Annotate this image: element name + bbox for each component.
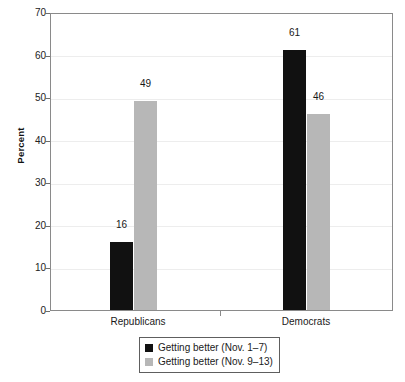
bar-republicans-nov1-7 [110,242,133,310]
x-tick-label-republicans: Republicans [88,316,188,327]
gridline-50 [51,99,392,100]
gridline-40 [51,141,392,142]
legend-item-nov9-13: Getting better (Nov. 9–13) [145,355,273,369]
y-tick-label-70: 70 [6,8,46,18]
y-tick-label-20: 20 [6,221,46,231]
y-tick-label-10: 10 [6,263,46,273]
bar-value-democrats-nov1-7: 61 [279,27,310,38]
chart-legend: Getting better (Nov. 1–7) Getting better… [139,337,280,373]
y-tick-label-30: 30 [6,178,46,188]
legend-item-nov1-7: Getting better (Nov. 1–7) [145,341,273,355]
plot-inner: 16 49 61 46 [51,14,392,310]
legend-swatch-icon-nov9-13 [145,358,153,366]
bar-value-republicans-nov9-13: 49 [130,78,161,89]
plot-area: 16 49 61 46 [50,13,393,311]
bar-value-democrats-nov9-13: 46 [303,91,334,102]
bar-democrats-nov9-13 [307,114,330,310]
y-tick-label-50: 50 [6,93,46,103]
legend-label-nov9-13: Getting better (Nov. 9–13) [158,356,273,368]
bar-republicans-nov9-13 [134,101,157,310]
legend-label-nov1-7: Getting better (Nov. 1–7) [158,342,267,354]
bar-democrats-nov1-7 [283,50,306,310]
gridline-20 [51,226,392,227]
y-tick-mark-0 [45,311,50,312]
bar-value-republicans-nov1-7: 16 [106,219,137,230]
y-tick-label-0: 0 [6,306,46,316]
x-tick-mark-category-separator [220,311,221,316]
gridline-10 [51,269,392,270]
gridline-30 [51,184,392,185]
bar-chart: Percent 70 60 50 40 30 20 10 0 16 49 [0,0,405,382]
legend-swatch-icon-nov1-7 [145,344,153,352]
y-tick-label-60: 60 [6,51,46,61]
gridline-60 [51,56,392,57]
x-tick-label-democrats: Democrats [256,316,356,327]
y-tick-label-40: 40 [6,136,46,146]
